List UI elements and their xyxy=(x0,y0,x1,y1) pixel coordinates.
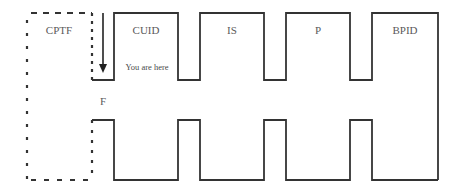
you-are-here-label: You are here xyxy=(125,63,168,72)
upper-process-outline xyxy=(92,13,438,180)
segment-label-is: IS xyxy=(227,25,237,36)
segment-label-bpid: BPID xyxy=(392,25,417,36)
down-arrow-icon xyxy=(99,13,107,73)
process-diagram: CPTF CUID IS P BPID You are here F xyxy=(0,0,458,190)
cptf-dashed-box xyxy=(27,13,92,180)
segment-label-p: P xyxy=(315,25,321,36)
lower-process-outline xyxy=(92,120,438,180)
gap-label-f: F xyxy=(100,96,106,107)
cptf-label: CPTF xyxy=(46,25,72,36)
segment-label-cuid: CUID xyxy=(133,25,160,36)
